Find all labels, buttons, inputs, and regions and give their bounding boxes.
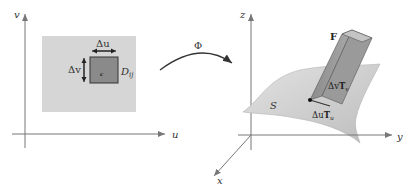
y-axis-label: y xyxy=(396,131,403,142)
cell-dij xyxy=(90,57,118,83)
surface-label: S xyxy=(270,100,277,111)
u-axis-label: u xyxy=(172,129,178,140)
uv-plane: v u Δu Δv Dij c xyxy=(12,9,178,148)
delta-v-label: Δv xyxy=(68,64,81,75)
surface-integral-diagram: v u Δu Δv Dij c Φ z y x S F Δv xyxy=(0,0,413,192)
mapping-phi: Φ xyxy=(160,40,232,70)
x-axis xyxy=(214,135,251,176)
delta-u-label: Δu xyxy=(96,38,110,49)
surface-s xyxy=(243,64,380,143)
v-axis-label: v xyxy=(14,9,20,20)
z-axis-label: z xyxy=(239,9,246,20)
xyz-space: z y x S F ΔvTv ΔuTu xyxy=(214,9,403,186)
x-axis-label: x xyxy=(217,175,223,186)
phi-label: Φ xyxy=(194,40,202,51)
force-label: F xyxy=(330,31,337,42)
